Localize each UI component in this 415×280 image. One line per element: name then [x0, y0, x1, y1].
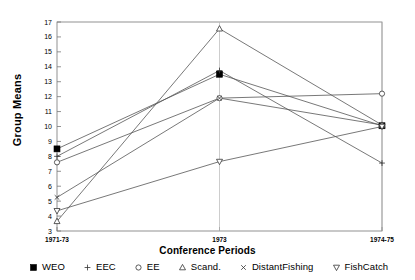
x-tick-label: 1974-75 [352, 236, 412, 243]
legend-item-label: DistantFishing [252, 262, 314, 272]
plus-icon [82, 262, 93, 273]
open-triangle-up-icon [177, 262, 188, 273]
y-tick-label: 12 [30, 93, 52, 100]
y-tick-label: 8 [30, 153, 52, 160]
y-tick-label: 7 [30, 168, 52, 175]
y-tick-label: 11 [30, 108, 52, 115]
filled-square-icon [28, 262, 39, 273]
legend-item-label: FishCatch [345, 262, 389, 272]
open-circle-icon [133, 262, 144, 273]
y-tick-label: 14 [30, 63, 52, 70]
legend-item-fishcatch[interactable]: FishCatch [331, 262, 389, 273]
legend-item-scand-[interactable]: Scand. [177, 262, 221, 273]
line-chart: Group Means Conference Periods 171615141… [0, 0, 415, 280]
legend-item-distantfishing[interactable]: DistantFishing [238, 262, 314, 273]
legend-item-label: Scand. [191, 262, 221, 272]
y-tick-label: 5 [30, 198, 52, 205]
y-tick-label: 17 [30, 19, 52, 26]
x-tick-label: 1971-73 [27, 236, 87, 243]
marker-open-circle [54, 160, 59, 165]
legend-item-weo[interactable]: WEO [28, 262, 65, 273]
legend-item-label: WEO [42, 262, 65, 272]
marker-open-triangle-up [179, 264, 185, 269]
legend-item-ee[interactable]: EE [133, 262, 160, 273]
marker-filled-square [54, 146, 60, 152]
marker-open-triangle-down [333, 265, 339, 270]
y-tick-label: 9 [30, 138, 52, 145]
marker-open-circle [379, 91, 384, 96]
marker-filled-square [31, 264, 37, 270]
open-triangle-down-icon [331, 262, 342, 273]
legend-item-eec[interactable]: EEC [82, 262, 116, 273]
marker-open-triangle-down [54, 209, 60, 214]
y-tick-label: 15 [30, 48, 52, 55]
y-tick-label: 10 [30, 123, 52, 130]
y-tick-label: 3 [30, 228, 52, 235]
y-tick-label: 6 [30, 183, 52, 190]
y-tick-label: 16 [30, 33, 52, 40]
x-tick-label: 1973 [190, 236, 250, 243]
legend-item-label: EE [147, 262, 160, 272]
legend-item-label: EEC [96, 262, 116, 272]
marker-open-circle [136, 264, 141, 269]
y-tick-label: 13 [30, 78, 52, 85]
chart-legend: WEOEECEEScand.DistantFishingFishCatch [0, 258, 415, 276]
cross-icon [238, 262, 249, 273]
y-tick-label: 4 [30, 213, 52, 220]
x-axis-title: Conference Periods [0, 245, 415, 256]
marker-open-triangle-up [217, 26, 223, 31]
y-axis-title: Group Means [11, 55, 23, 165]
